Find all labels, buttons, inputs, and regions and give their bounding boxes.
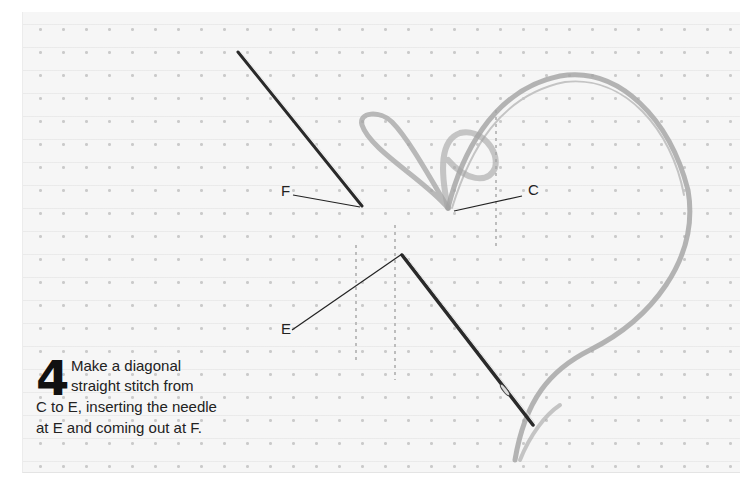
leader-line-f	[293, 195, 360, 207]
label-e: E	[281, 321, 291, 336]
caption-line-2: straight stitch from	[71, 377, 194, 394]
caption-line-1: Make a diagonal	[71, 357, 181, 374]
step-number: 4	[36, 356, 69, 400]
label-c: C	[528, 182, 539, 197]
needle-upper	[238, 52, 364, 206]
caption-line-4: at E and coming out at F.	[36, 419, 202, 436]
label-f: F	[281, 183, 290, 198]
caption-line-3: C to E, inserting the needle	[36, 398, 217, 415]
leader-line-e	[292, 254, 402, 330]
needle-lower	[402, 255, 535, 425]
leader-line-c	[454, 196, 522, 211]
